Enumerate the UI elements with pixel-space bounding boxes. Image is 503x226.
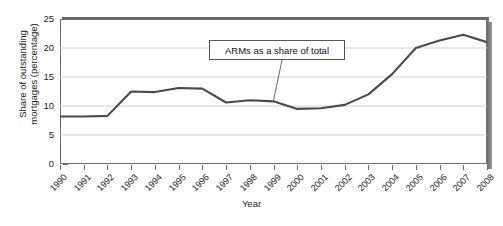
x-axis-tick-label: 2008	[471, 172, 496, 197]
x-axis-tick-mark	[60, 165, 61, 170]
x-axis-tick-label: 1994	[138, 172, 163, 197]
annotation-callout-box: ARMs as a share of total	[209, 40, 345, 60]
x-axis-tick-mark	[179, 165, 180, 170]
x-axis-tick-mark	[107, 165, 108, 170]
x-axis-tick-label: 1990	[44, 172, 69, 197]
x-axis-tick-label: 2002	[328, 172, 353, 197]
x-axis-tick-mark	[131, 165, 132, 170]
x-axis-tick-mark	[155, 165, 156, 170]
x-axis-tick-label: 1993	[115, 172, 140, 197]
x-axis-tick-label: 1992	[91, 172, 116, 197]
x-axis-tick-mark	[487, 165, 488, 170]
x-axis-tick-label: 1991	[67, 172, 92, 197]
x-axis-tick-label: 1998	[233, 172, 258, 197]
x-axis-tick-mark	[274, 165, 275, 170]
x-axis-tick-label: 1995	[162, 172, 187, 197]
x-axis-tick-label: 1997	[210, 172, 235, 197]
gridlines	[60, 48, 487, 135]
annotation-leader-line	[274, 60, 283, 100]
y-axis-tick-mark	[63, 164, 68, 165]
x-axis-tick-label: 2001	[305, 172, 330, 197]
cropped-title-text	[0, 0, 503, 8]
x-axis-tick-mark	[297, 165, 298, 170]
x-axis-tick-label: 1999	[257, 172, 282, 197]
chart-figure: Share of outstanding mortgages (percenta…	[0, 0, 503, 226]
y-axis-tick-label: 25	[8, 13, 54, 24]
x-axis-tick-mark	[345, 165, 346, 170]
x-axis-tick-mark	[392, 165, 393, 170]
x-axis-tick-label: 2006	[423, 172, 448, 197]
x-axis-tick-label: 2000	[281, 172, 306, 197]
x-axis-tick-mark	[440, 165, 441, 170]
y-axis-tick-label: 5	[8, 129, 54, 140]
x-axis-tick-mark	[84, 165, 85, 170]
annotation-callout-label: ARMs as a share of total	[225, 45, 329, 56]
x-axis-tick-mark	[416, 165, 417, 170]
x-axis-tick-mark	[250, 165, 251, 170]
x-axis-tick-label: 2004	[376, 172, 401, 197]
x-axis-tick-label: 2007	[447, 172, 472, 197]
x-axis-tick-label: 2003	[352, 172, 377, 197]
x-axis-tick-mark	[226, 165, 227, 170]
x-axis-tick-mark	[202, 165, 203, 170]
y-axis-tick-label: 20	[8, 42, 54, 53]
x-axis-tick-mark	[321, 165, 322, 170]
x-axis-tick-mark	[463, 165, 464, 170]
frame-right-shadow	[487, 22, 492, 169]
cropped-footer-text	[0, 217, 503, 226]
y-axis-tick-label: 0	[8, 158, 54, 169]
y-axis-tick-label: 15	[8, 71, 54, 82]
x-axis-tick-mark	[368, 165, 369, 170]
x-axis-title: Year	[0, 198, 503, 209]
x-axis-tick-label: 1996	[186, 172, 211, 197]
y-axis-tick-label: 10	[8, 100, 54, 111]
x-axis-tick-label: 2005	[399, 172, 424, 197]
